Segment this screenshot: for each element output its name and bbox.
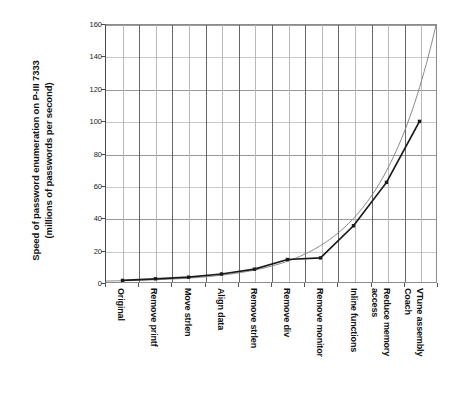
x-axis-tick-mark: [437, 283, 438, 287]
data-point-marker: [220, 272, 223, 275]
y-axis-tick-label: 140: [78, 52, 102, 61]
y-axis-tick-label: 100: [78, 117, 102, 126]
x-axis-category-label: Original: [113, 288, 126, 392]
x-axis-category-label: Remove printf: [146, 288, 159, 392]
measured-speed-line: [123, 121, 420, 280]
x-axis-tick-mark: [138, 283, 139, 287]
series-layer: [106, 25, 436, 282]
chart-container: Speed of password enumeration on P-III 7…: [0, 0, 457, 398]
x-axis-category-label: VTune assembly Coach: [412, 288, 425, 392]
x-axis-tick-mark: [304, 283, 305, 287]
y-axis-tick-label: 60: [78, 181, 102, 190]
x-axis-tick-mark: [271, 283, 272, 287]
x-axis-tick-mark: [371, 283, 372, 287]
y-axis-tick-label: 160: [78, 20, 102, 29]
y-axis-tick-label: 40: [78, 214, 102, 223]
x-axis-category-label: Reduce memory access: [379, 288, 392, 392]
x-axis-category-label: Inline functions: [346, 288, 359, 392]
y-axis-tick-label: 80: [78, 149, 102, 158]
plot-area: [105, 24, 437, 283]
data-point-marker: [253, 267, 256, 270]
x-axis-tick-mark: [205, 283, 206, 287]
data-point-marker: [154, 277, 157, 280]
x-axis-category-labels: OriginalRemove printfMove strlenAlign da…: [105, 288, 437, 396]
y-axis-tick-label: 0: [78, 279, 102, 288]
x-axis-category-label: Remove div: [279, 288, 292, 392]
data-point-marker: [319, 256, 322, 259]
x-axis-tick-mark: [105, 283, 106, 287]
data-point-markers: [121, 120, 421, 282]
data-point-marker: [352, 224, 355, 227]
x-axis-category-label: Move strlen: [180, 288, 193, 392]
data-point-marker: [286, 258, 289, 261]
data-point-marker: [418, 120, 421, 123]
y-axis-tick-label: 20: [78, 246, 102, 255]
y-axis-tick-label: 120: [78, 84, 102, 93]
x-axis-tick-mark: [171, 283, 172, 287]
x-axis-tick-mark: [238, 283, 239, 287]
x-axis-tick-mark: [337, 283, 338, 287]
data-point-marker: [385, 181, 388, 184]
x-axis-tick-mark: [404, 283, 405, 287]
x-axis-category-label: Remove strlen: [246, 288, 259, 392]
x-axis-category-label: Align data: [213, 288, 226, 392]
data-point-marker: [187, 275, 190, 278]
exponential-trend-line: [106, 25, 436, 281]
x-axis-category-label: Remove monitor: [312, 288, 325, 392]
data-point-marker: [121, 279, 124, 282]
